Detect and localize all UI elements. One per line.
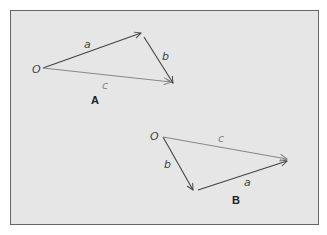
figure-a-vector-c-label: c [102,79,108,92]
figure-a: O a b c A [32,33,173,106]
figure-b-caption: B [232,194,240,206]
figure-a-caption: A [91,94,99,106]
figure-a-vector-a [43,33,141,68]
figure-b-vector-a [198,161,287,190]
figure-a-vector-b-label: b [162,50,169,63]
vector-diagram: O a b c A O b a c B [0,0,327,235]
figure-b-vector-a-label: a [244,176,251,189]
figure-a-vector-a-label: a [84,38,91,51]
figure-b: O b a c B [150,130,287,206]
figure-b-vector-c-label: c [218,132,224,145]
figure-b-vector-c [163,137,287,159]
figure-b-origin-label: O [150,130,159,143]
figure-b-vector-b-label: b [164,158,171,171]
figure-a-origin-label: O [32,63,41,76]
